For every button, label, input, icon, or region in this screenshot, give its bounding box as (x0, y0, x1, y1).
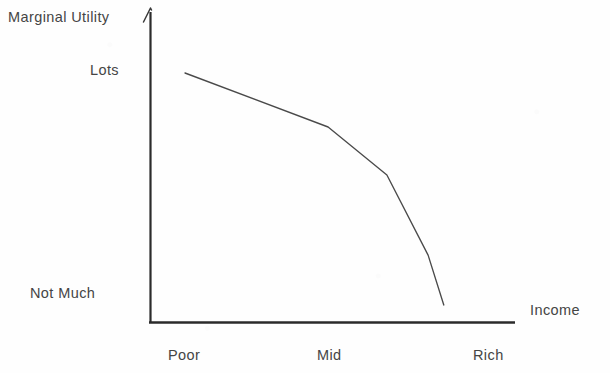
x-tick-label-mid: Mid (317, 348, 342, 363)
x-tick-label-poor: Poor (168, 348, 200, 363)
y-tick-label-not-much: Not Much (30, 286, 95, 301)
y-axis (144, 8, 152, 323)
utility-curve-line (185, 73, 444, 305)
y-tick-label-lots: Lots (90, 63, 119, 78)
data-series-marginal-utility (185, 73, 444, 305)
x-tick-label-rich: Rich (473, 348, 504, 363)
x-axis-title: Income (530, 303, 580, 318)
plot-area (0, 0, 610, 373)
y-axis-title: Marginal Utility (8, 10, 109, 25)
chart-figure: Marginal Utility Lots Not Much Income Po… (0, 0, 610, 373)
